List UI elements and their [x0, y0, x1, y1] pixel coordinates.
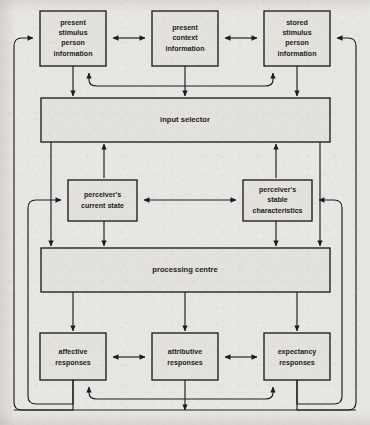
node-box-rect [264, 333, 330, 380]
node-label-line: information [53, 50, 92, 58]
flow-diagram: present stimulus person information pres… [0, 0, 370, 425]
node-box-rect [40, 333, 106, 380]
node-label-line: stimulus [282, 29, 311, 37]
node-affective-responses[interactable]: affective responses [40, 333, 106, 380]
row1-to-input-selector [73, 66, 297, 96]
node-label-line: perceiver's [259, 186, 296, 194]
node-label-line: present [172, 24, 198, 32]
node-label-line: input selector [160, 115, 210, 124]
node-label-line: person [61, 39, 85, 47]
node-stored-stimulus-person-information[interactable]: stored stimulus person information [264, 11, 330, 66]
node-box-rect [68, 180, 137, 221]
node-label-line: responses [279, 359, 315, 367]
processing-to-responses [73, 292, 297, 331]
node-present-stimulus-person-information[interactable]: present stimulus person information [40, 11, 106, 66]
node-label-line: stimulus [58, 29, 87, 37]
node-label-line: stored [286, 19, 308, 27]
node-perceivers-current-state[interactable]: perceiver's current state [68, 180, 137, 221]
node-label-line: processing centre [152, 265, 217, 274]
node-box-rect [152, 333, 218, 380]
node-attributive-responses[interactable]: attributive responses [152, 333, 218, 380]
node-label-line: characteristics [252, 207, 302, 215]
node-processing-centre[interactable]: processing centre [41, 248, 330, 292]
node-label-line: current state [81, 202, 124, 210]
node-label-line: affective [59, 348, 88, 356]
node-present-context-information[interactable]: present context information [152, 11, 218, 66]
node-label-line: expectancy [278, 348, 317, 356]
node-label-line: information [277, 50, 316, 58]
node-label-line: attributive [168, 348, 202, 356]
node-label-line: responses [167, 359, 203, 367]
node-label-line: context [172, 34, 198, 42]
node-label-line: information [165, 45, 204, 53]
node-input-selector[interactable]: input selector [41, 98, 330, 142]
node-label-line: responses [55, 359, 91, 367]
node-label-line: perceiver's [84, 191, 121, 199]
node-label-line: person [285, 39, 309, 47]
node-perceivers-stable-characteristics[interactable]: perceiver's stable characteristics [243, 180, 312, 221]
diagram-canvas: present stimulus person information pres… [0, 0, 370, 425]
node-expectancy-responses[interactable]: expectancy responses [264, 333, 330, 380]
affective-expectancy-arc-path [89, 387, 273, 399]
node-label-line: present [60, 19, 86, 27]
node-label-line: stable [267, 196, 288, 204]
stimulus-stored-arc-path [89, 73, 273, 86]
